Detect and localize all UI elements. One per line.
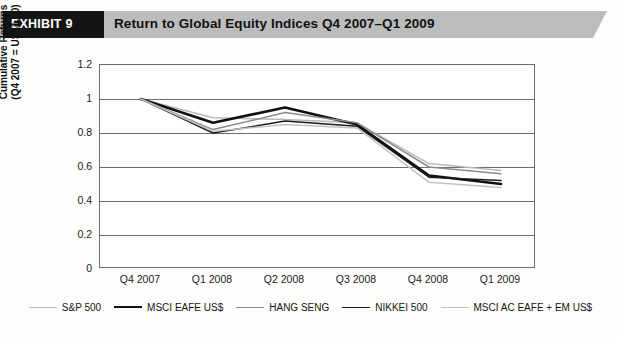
legend-item[interactable]: NIKKEI 500 bbox=[342, 302, 427, 313]
x-axis-tick-label: Q4 2008 bbox=[408, 273, 448, 285]
legend-label: S&P 500 bbox=[62, 302, 101, 313]
series-line bbox=[141, 99, 501, 184]
y-axis-tick-label: 1 bbox=[51, 92, 92, 104]
legend-item[interactable]: S&P 500 bbox=[29, 302, 101, 313]
series-line bbox=[141, 99, 501, 174]
y-axis-tick-label: 0.6 bbox=[51, 160, 92, 172]
legend-item[interactable]: MSCI EAFE US$ bbox=[114, 302, 223, 313]
legend-swatch bbox=[441, 307, 469, 308]
legend-swatch bbox=[236, 307, 264, 308]
plot-area bbox=[99, 64, 535, 268]
y-axis-title-line-2: (Q4 2007 = US$1.00) bbox=[10, 0, 22, 112]
legend-label: MSCI EAFE US$ bbox=[147, 302, 223, 313]
legend-label: HANG SENG bbox=[269, 302, 329, 313]
y-axis-tick-label: 1.2 bbox=[51, 58, 92, 70]
series-lines bbox=[100, 65, 536, 269]
legend-label: NIKKEI 500 bbox=[375, 302, 427, 313]
y-axis-tick-label: 0.8 bbox=[51, 126, 92, 138]
legend-swatch bbox=[29, 307, 57, 308]
exhibit-title: Return to Global Equity Indices Q4 2007–… bbox=[114, 16, 435, 31]
series-line bbox=[141, 99, 501, 170]
y-axis-title: Cumulative Returns (Q4 2007 = US$1.00) bbox=[0, 0, 22, 112]
exhibit-header: EXHIBIT 9 Return to Global Equity Indice… bbox=[0, 11, 621, 38]
chart-legend: S&P 500MSCI EAFE US$HANG SENGNIKKEI 500M… bbox=[0, 296, 621, 318]
legend-swatch bbox=[114, 306, 142, 308]
x-axis-tick-label: Q1 2008 bbox=[192, 273, 232, 285]
legend-swatch bbox=[342, 307, 370, 308]
x-axis-tick-label: Q2 2008 bbox=[264, 273, 304, 285]
legend-label: MSCI AC EAFE + EM US$ bbox=[474, 302, 593, 313]
x-axis-tick-label: Q3 2008 bbox=[336, 273, 376, 285]
y-axis-tick-label: 0.2 bbox=[51, 228, 92, 240]
legend-item[interactable]: MSCI AC EAFE + EM US$ bbox=[441, 302, 593, 313]
y-axis-tick-label: 0 bbox=[51, 262, 92, 274]
legend-item[interactable]: HANG SENG bbox=[236, 302, 329, 313]
x-axis-tick-label: Q1 2009 bbox=[480, 273, 520, 285]
chart-container: Cumulative Returns (Q4 2007 = US$1.00) 1… bbox=[0, 44, 621, 340]
y-axis-title-line-1: Cumulative Returns bbox=[0, 0, 10, 112]
x-axis-tick-label: Q4 2007 bbox=[120, 273, 160, 285]
y-axis-tick-label: 0.4 bbox=[51, 194, 92, 206]
